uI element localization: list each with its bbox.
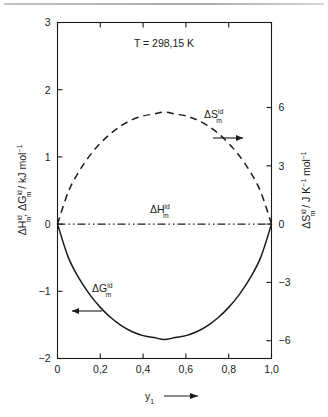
left-tick-label-2: 0	[45, 218, 51, 230]
right-title-mol: mol	[300, 159, 312, 179]
right-title-units-jk: / J K	[300, 187, 312, 211]
series-label-delta-s: ΔSidm	[204, 108, 243, 141]
left-axis-ticks	[58, 23, 63, 359]
delta-h-subscript: m	[163, 212, 169, 219]
left-tick-label-4: 2	[45, 84, 51, 96]
right-axis-tick-labels: −6−3036	[279, 101, 291, 346]
temperature-annotation: T = 298,15 K	[134, 37, 194, 49]
left-tick-label-1: −1	[39, 285, 51, 297]
left-title-units: / kJ mol	[16, 153, 28, 192]
x-tick-label-5: 1,0	[264, 363, 279, 375]
svg-text:ΔSidm: ΔSidm	[204, 108, 224, 124]
x-tick-label-3: 0,6	[179, 363, 194, 375]
top-axis-ticks	[58, 23, 272, 28]
x-axis-title-arrow	[164, 393, 198, 399]
right-tick-label-3: 3	[279, 160, 285, 172]
figure-container: −2−10123 −6−3036 00,20,40,60,81,0 T = 29…	[0, 0, 328, 417]
series-label-delta-h: ΔHidm	[150, 203, 170, 219]
x-tick-label-0: 0	[55, 363, 61, 375]
x-tick-label-2: 0,4	[136, 363, 151, 375]
svg-text:ΔSidm / J K−1 mol−1: ΔSidm / J K−1 mol−1	[300, 151, 316, 229]
left-tick-label-0: −2	[39, 352, 51, 364]
left-title-units-exp: −1	[16, 145, 23, 153]
left-axis-tick-labels: −2−10123	[39, 16, 51, 364]
svg-text:ΔGidm: ΔGidm	[92, 282, 113, 298]
x-axis-title: y1	[145, 390, 198, 405]
x-axis-tick-labels: 00,20,40,60,81,0	[55, 363, 279, 375]
delta-g-subscript: m	[105, 291, 111, 298]
x-tick-label-4: 0,8	[221, 363, 236, 375]
right-axis-title: ΔSidm / J K−1 mol−1	[300, 151, 316, 229]
page-top-rule	[4, 3, 324, 5]
right-tick-label-4: 6	[279, 101, 285, 113]
x-tick-label-1: 0,2	[93, 363, 108, 375]
x-axis-ticks	[58, 354, 272, 359]
right-title-mol-exp: −1	[300, 151, 307, 159]
svg-text:y1: y1	[145, 390, 154, 405]
curve-delta-g	[58, 224, 272, 339]
delta-s-axis-arrow	[213, 135, 243, 141]
left-title-dg: , ΔG	[16, 196, 28, 217]
delta-h-superscript: id	[165, 203, 171, 210]
right-tick-label-1: −3	[279, 276, 291, 288]
x-title-subscript: 1	[150, 398, 154, 405]
svg-text:ΔHidm, ΔGidm / kJ mol−1: ΔHidm, ΔGidm / kJ mol−1	[16, 145, 32, 236]
left-axis-title: ΔHidm, ΔGidm / kJ mol−1	[16, 145, 32, 236]
chart-canvas: −2−10123 −6−3036 00,20,40,60,81,0 T = 29…	[0, 0, 328, 417]
left-tick-label-5: 3	[45, 16, 51, 28]
svg-text:ΔHidm: ΔHidm	[150, 203, 170, 219]
delta-s-subscript: m	[216, 117, 222, 124]
right-tick-label-2: 0	[279, 218, 285, 230]
left-tick-label-3: 1	[45, 151, 51, 163]
delta-g-superscript: id	[107, 282, 113, 289]
plot-frame	[58, 23, 272, 359]
right-tick-label-0: −6	[279, 334, 291, 346]
delta-s-superscript: id	[218, 108, 224, 115]
delta-g-axis-arrow	[72, 308, 102, 314]
